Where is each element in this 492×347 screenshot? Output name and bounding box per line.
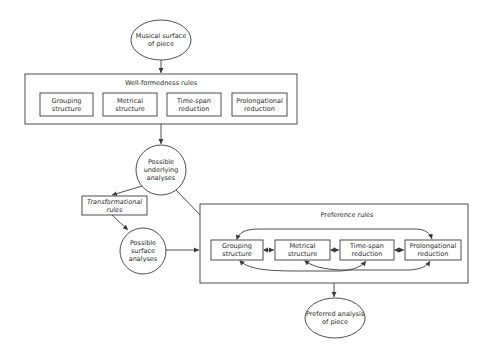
preferred-analysis-label: Preferred analysis of piece [303,306,367,330]
pr-metrical-structure: Metrical structure [275,240,330,260]
musical-surface-label: Musical surface of piece [131,28,191,52]
wellformedness-title: Well-formedness rules [120,78,202,88]
diagram-canvas [0,0,492,347]
preference-title: Preference rules [312,210,382,220]
surface-analyses-label: Possible surface analyses [120,237,166,265]
pr-grouping-structure: Grouping structure [211,240,263,260]
pr-timespan-reduction: Time-span reduction [340,240,394,260]
pr-prolongational-reduction: Prolongational reduction [405,240,461,260]
wf-prolongational-reduction: Prolongational reduction [232,93,287,116]
transformational-rules-label: Transformational rules [82,196,147,215]
underlying-analyses-label: Possible underlying analyses [136,156,186,184]
wf-metrical-structure: Metrical structure [103,93,157,116]
wf-timespan-reduction: Time-span reduction [167,93,221,116]
wf-grouping-structure: Grouping structure [40,93,93,116]
